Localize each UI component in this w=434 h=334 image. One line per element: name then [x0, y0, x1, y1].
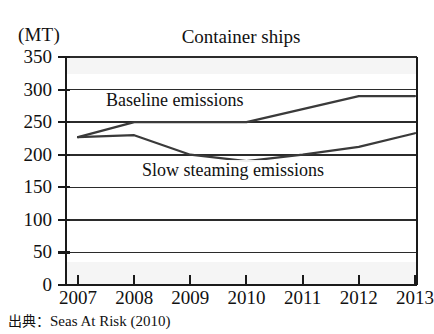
x-tick-label-2008: 2008 [106, 288, 162, 307]
source-note: 出典：Seas At Risk (2010) [8, 310, 170, 330]
x-tick-label-2012: 2012 [331, 288, 387, 307]
series-label-baseline: Baseline emissions [104, 90, 246, 111]
source-text: Seas At Risk (2010) [50, 313, 170, 329]
x-tick-label-2010: 2010 [219, 288, 275, 307]
series-label-slow-steaming: Slow steaming emissions [140, 160, 326, 181]
y-tick-label-100: 100 [4, 210, 52, 229]
x-tick-label-2011: 2011 [275, 288, 331, 307]
y-tick-label-250: 250 [4, 112, 52, 131]
series-line-slow-steaming [78, 133, 415, 161]
y-tick-label-0: 0 [4, 275, 52, 294]
y-tick-label-350: 350 [4, 47, 52, 66]
y-tick-marks [58, 57, 70, 285]
chart-figure: (MT) Container ships [0, 0, 434, 334]
y-tick-label-200: 200 [4, 145, 52, 164]
x-tick-label-2013: 2013 [387, 288, 434, 307]
gridlines [66, 57, 417, 252]
y-tick-label-50: 50 [4, 242, 52, 261]
y-tick-label-300: 300 [4, 80, 52, 99]
x-tick-label-2009: 2009 [162, 288, 218, 307]
source-prefix-label: 出典 [8, 313, 36, 329]
x-tick-marks [78, 275, 415, 285]
source-separator: ： [36, 313, 50, 329]
x-tick-label-2007: 2007 [50, 288, 106, 307]
y-tick-label-150: 150 [4, 177, 52, 196]
